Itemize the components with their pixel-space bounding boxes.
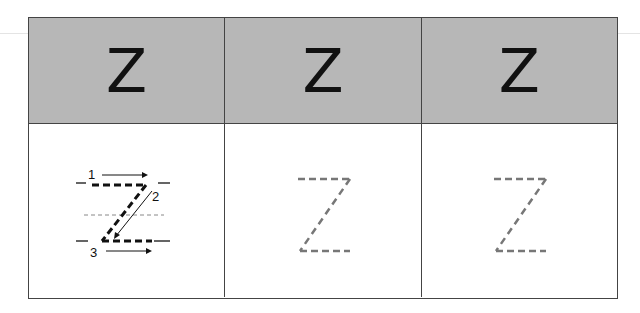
guided-trace-cell: 1 2 3 (29, 124, 225, 297)
stroke-order-z-icon: 1 2 3 (72, 161, 182, 261)
header-cell-1: Z (29, 18, 225, 123)
dashed-z-icon (288, 169, 358, 253)
letter-worksheet-table: Z Z Z (28, 17, 618, 299)
header-cell-2: Z (225, 18, 421, 123)
svg-text:2: 2 (152, 189, 159, 204)
dashed-z-icon (484, 169, 554, 253)
dashed-trace-cell-1[interactable] (225, 124, 421, 297)
letter-z: Z (422, 28, 617, 114)
svg-text:1: 1 (88, 167, 95, 182)
letter-z: Z (225, 28, 420, 114)
header-row: Z Z Z (29, 18, 617, 124)
dashed-trace-cell-2[interactable] (422, 124, 617, 297)
letter-z: Z (29, 28, 224, 114)
svg-text:3: 3 (90, 245, 97, 260)
header-cell-3: Z (422, 18, 617, 123)
tracing-row: 1 2 3 (29, 124, 617, 297)
